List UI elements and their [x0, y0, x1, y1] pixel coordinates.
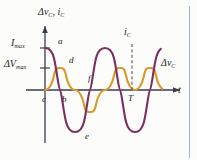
y-axis-arrowhead	[42, 26, 48, 33]
point-label-f: f	[88, 74, 91, 83]
tick-label-imax: Imax	[11, 38, 25, 49]
y-axis-i-sub: C	[60, 11, 64, 18]
point-label-a: a	[58, 37, 63, 46]
vmax-sub: max	[16, 63, 26, 70]
vmax-prefix: ΔV	[4, 58, 16, 69]
point-label-e: e	[85, 132, 89, 141]
point-label-b: b	[62, 95, 67, 104]
figure-canvas: ΔvC, iC t Imax ΔVmax iC ΔvC T a b c d e …	[0, 0, 197, 160]
period-label: T	[128, 94, 133, 103]
plot-svg	[0, 0, 197, 160]
tick-label-deltavmax: ΔVmax	[4, 59, 26, 70]
current-curve-label: iC	[124, 27, 131, 38]
x-axis-label: t	[178, 85, 181, 95]
imax-sub: max	[14, 42, 24, 49]
dvc-sub: C	[171, 62, 175, 69]
point-label-d: d	[69, 56, 74, 65]
panel-divider	[189, 6, 190, 158]
point-label-c: c	[42, 95, 46, 104]
voltage-curve-label: ΔvC	[161, 58, 175, 69]
y-axis-label: ΔvC, iC	[38, 7, 64, 18]
ic-sub: C	[127, 31, 131, 38]
